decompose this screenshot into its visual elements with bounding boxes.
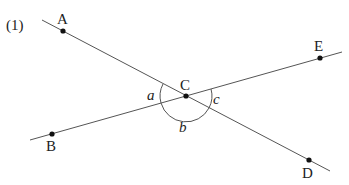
point-B — [49, 131, 54, 136]
label-D: D — [302, 165, 313, 181]
angle-label-c: c — [213, 91, 220, 107]
geometry-figure: (1) A B C D E a b c — [0, 0, 349, 185]
label-E: E — [314, 38, 323, 54]
point-D — [306, 157, 311, 162]
angle-a-arc — [160, 84, 163, 103]
label-C: C — [180, 77, 190, 93]
point-C — [183, 93, 188, 98]
label-A: A — [57, 11, 68, 27]
angle-label-a: a — [147, 87, 155, 103]
angle-label-b: b — [179, 119, 187, 135]
diagram-svg: (1) A B C D E a b c — [0, 0, 349, 185]
label-B: B — [46, 138, 56, 154]
point-E — [317, 55, 322, 60]
point-A — [60, 28, 65, 33]
problem-number: (1) — [6, 17, 24, 34]
angle-c-arc — [209, 89, 212, 108]
